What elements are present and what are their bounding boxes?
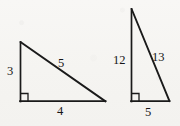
left-triangle-horizontal-leg-label: 4: [57, 105, 63, 118]
left-triangle-vertical-leg-label: 3: [7, 65, 13, 78]
left-triangle-shape: [20, 42, 106, 102]
left-triangle-hypotenuse: [21, 42, 106, 101]
right-triangle-hypotenuse-label: 13: [152, 51, 165, 64]
left-triangle-right-angle-mark: [21, 94, 28, 102]
left-triangle-hypotenuse-label: 5: [58, 57, 64, 70]
right-triangle-vertical-leg-label: 12: [113, 54, 126, 67]
right-triangle-right-angle-mark: [132, 94, 139, 102]
right-triangle-horizontal-leg-label: 5: [145, 106, 151, 119]
figure-container: 3 5 4 12 13 5: [0, 0, 180, 126]
